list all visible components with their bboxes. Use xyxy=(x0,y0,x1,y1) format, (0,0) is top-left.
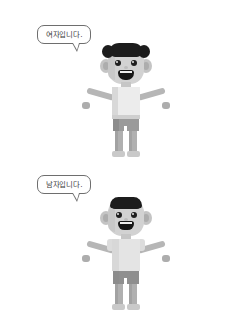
panel-female: 여자입니다. xyxy=(0,0,251,166)
male-figure xyxy=(80,188,172,308)
speech-bubble-female-tail-fill xyxy=(73,43,79,50)
shirt-shading xyxy=(112,239,119,271)
teeth xyxy=(120,222,132,224)
hair-fringe xyxy=(111,205,141,209)
arm-left xyxy=(86,87,115,100)
hand-left xyxy=(82,102,90,109)
nose xyxy=(124,66,128,69)
eye-right-highlight xyxy=(132,61,134,63)
eye-right-highlight xyxy=(132,213,134,215)
speech-bubble-male-text: 남자입니다. xyxy=(46,181,83,188)
panel-male: 남자입니다. xyxy=(0,166,251,332)
hand-left xyxy=(82,255,90,262)
hand-right xyxy=(162,255,170,262)
head-shading xyxy=(108,206,115,232)
leg-left-shading xyxy=(115,131,118,153)
eye-left-highlight xyxy=(117,213,119,215)
shorts-gap xyxy=(124,126,127,131)
speech-bubble-female-text: 여자입니다. xyxy=(46,31,83,38)
arm-right xyxy=(137,87,166,100)
shorts-shading xyxy=(113,119,119,131)
teeth xyxy=(120,71,132,73)
foot-right xyxy=(127,304,140,310)
eye-left-highlight xyxy=(116,61,118,63)
leg-left-shading xyxy=(115,284,118,306)
hair-fringe xyxy=(110,52,142,57)
foot-left xyxy=(112,304,125,310)
shorts-gap xyxy=(124,278,127,284)
leg-right-shading xyxy=(129,284,132,306)
hand-right xyxy=(162,102,170,109)
illustration-canvas: 여자입니다. xyxy=(0,0,251,332)
leg-right-shading xyxy=(129,131,132,153)
shorts-shading xyxy=(113,271,119,284)
female-figure xyxy=(80,38,172,158)
speech-bubble-male-tail-fill xyxy=(73,193,79,200)
foot-left xyxy=(112,151,125,157)
foot-right xyxy=(127,151,140,157)
